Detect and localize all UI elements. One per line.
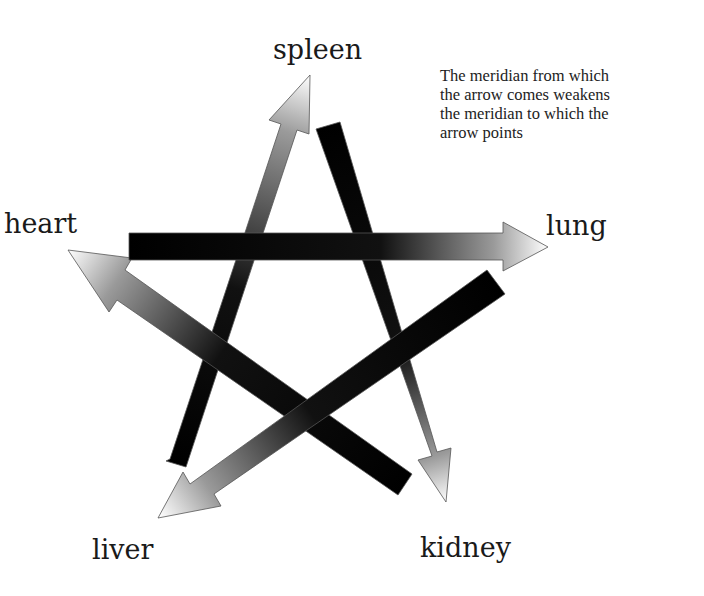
arrow-heart-to-lung [129,222,548,271]
label-heart: heart [4,210,77,237]
label-spleen: spleen [273,36,362,63]
explanation-note: The meridian from which the arrow comes … [440,66,704,142]
note-line: the meridian to which the [440,104,704,123]
note-line: the arrow comes weakens [440,85,704,104]
label-lung: lung [546,212,607,239]
label-liver: liver [92,536,153,563]
label-kidney: kidney [420,534,511,561]
note-line: arrow points [440,123,704,142]
note-line: The meridian from which [440,66,704,85]
